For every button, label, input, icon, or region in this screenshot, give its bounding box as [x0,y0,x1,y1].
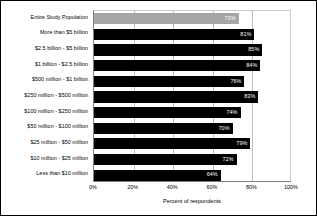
x-tick-label: 60% [206,185,217,190]
bar-value-label: 72% [222,157,236,162]
x-tick-label: 0% [89,185,97,190]
x-axis-tick-labels: 0%20%40%60%80%100% [93,185,291,195]
bar: 73% [94,13,239,24]
bar: 64% [94,170,221,181]
bar: 72% [94,154,237,165]
bar-row: 83% [94,91,290,102]
bar: 85% [94,44,262,55]
bar: 83% [94,91,258,102]
category-label: Entire Study Population [31,15,89,20]
bar: 81% [94,29,254,40]
bar-value-label: 70% [219,126,233,131]
bar-row: 76% [94,76,290,87]
category-label: $2.5 billion - $5 billion [35,46,88,51]
bar-row: 70% [94,123,290,134]
bar-row: 81% [94,29,290,40]
x-tick-label: 100% [284,185,298,190]
plot-area: 73%81%85%84%76%83%74%70%79%72%64% [93,10,291,182]
bar-row: 72% [94,154,290,165]
bar-value-label: 84% [246,63,260,68]
bar-row: 79% [94,138,290,149]
bar-value-label: 79% [236,141,250,146]
category-label: $50 million - $100 million [27,124,88,129]
category-label: $500 million - $1 billion [32,77,88,82]
x-tick-label: 20% [127,185,138,190]
bar: 84% [94,60,260,71]
category-label: Less than $10 million [36,171,88,176]
bar-rows: 73%81%85%84%76%83%74%70%79%72%64% [94,11,290,181]
x-tick-label: 40% [167,185,178,190]
bar-row: 85% [94,44,290,55]
bar-value-label: 83% [244,94,258,99]
x-tick-label: 80% [246,185,257,190]
bar-chart-figure: Entire Study PopulationMore than $5 bill… [0,0,317,216]
bar-value-label: 85% [248,47,262,52]
bar-value-label: 76% [230,79,244,84]
category-label: $1 billion - $2.5 billion [35,62,88,67]
bar-value-label: 64% [207,172,221,177]
bar-value-label: 74% [226,110,240,115]
bar-value-label: 81% [240,32,254,37]
bar: 79% [94,138,250,149]
category-axis-labels: Entire Study PopulationMore than $5 bill… [1,10,91,182]
bar-row: 73% [94,13,290,24]
category-label: $250 million - $500 million [24,93,88,98]
bar: 74% [94,107,241,118]
category-label: $100 million - $250 million [24,109,88,114]
x-axis-title: Percent of respondents [93,199,291,205]
bar: 70% [94,123,233,134]
category-label: More than $5 billion [40,30,88,35]
category-label: $10 million - $25 million [30,156,88,161]
bar-row: 84% [94,60,290,71]
category-label: $25 million - $50 million [30,140,88,145]
bar-row: 74% [94,107,290,118]
bar: 76% [94,76,244,87]
bar-value-label: 73% [224,16,238,21]
bar-row: 64% [94,170,290,181]
